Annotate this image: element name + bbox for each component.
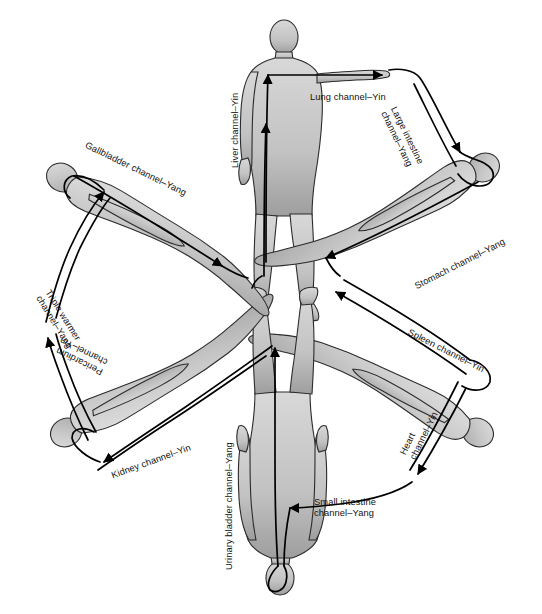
diagram-canvas xyxy=(0,0,542,614)
label-small-intestine-channel[interactable]: Small intestine channel–Yang xyxy=(314,497,376,519)
channel-circulation-diagram: Lung channel–Yin Large intestine channel… xyxy=(0,0,542,614)
label-urinary-bladder-channel[interactable]: Urinary bladder channel–Yang xyxy=(224,442,235,570)
label-lung-channel[interactable]: Lung channel–Yin xyxy=(310,92,386,103)
label-liver-channel[interactable]: Liver channel–Yin xyxy=(230,93,241,168)
